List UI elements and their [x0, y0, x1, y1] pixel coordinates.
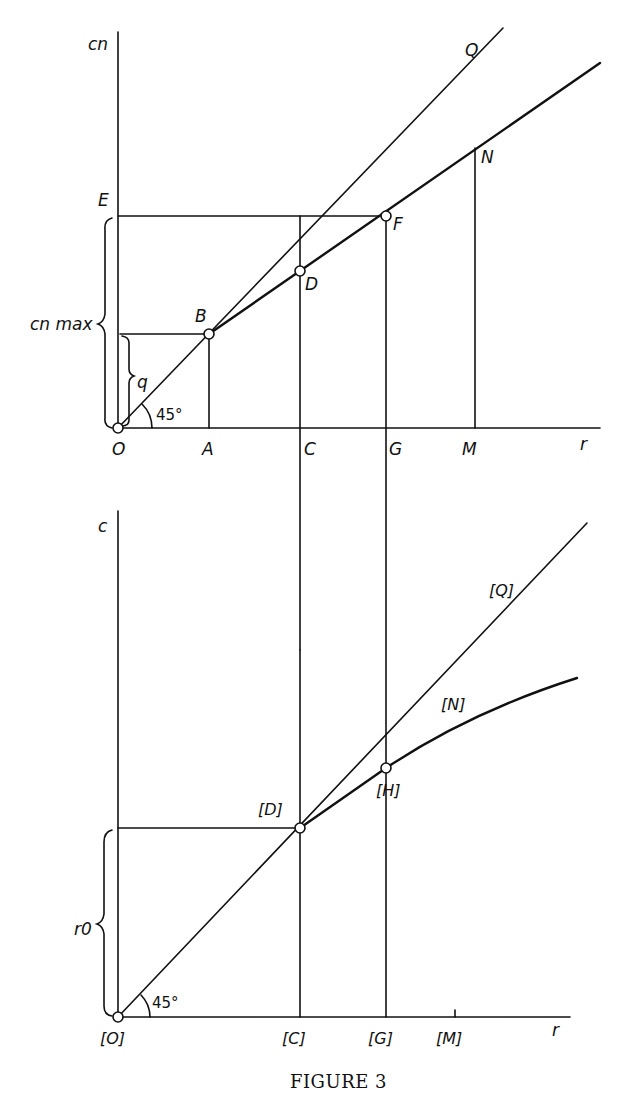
bottom-angle-arc: [141, 995, 150, 1017]
label-cn-max: cn max: [30, 314, 94, 334]
bottom-diagram: c [Q] [N] [H] [D] r0 45° [O] [C] [G] [M]…: [74, 511, 587, 1048]
bottom-N-curve: [300, 678, 577, 828]
label-O: O: [112, 439, 125, 459]
bottom-point-O: [113, 1012, 123, 1022]
top-point-D: [295, 266, 305, 276]
top-point-O: [113, 423, 123, 433]
label-bracket-N: [N]: [441, 695, 465, 714]
cn-max-brace: [98, 218, 112, 428]
label-bracket-H: [H]: [376, 781, 401, 800]
label-bracket-O: [O]: [100, 1029, 125, 1048]
label-A: A: [201, 439, 214, 459]
bottom-point-D: [295, 823, 305, 833]
figure-3-diagram: cn E cn max q 45° B D F N Q O A C G M r: [0, 0, 633, 1106]
label-G: G: [389, 439, 402, 459]
bottom-Q-line: [118, 523, 587, 1017]
label-B: B: [195, 306, 207, 326]
label-F: F: [393, 214, 403, 234]
bottom-point-H: [381, 763, 391, 773]
label-bracket-G: [G]: [368, 1029, 393, 1048]
label-N: N: [481, 147, 494, 167]
label-M: M: [462, 439, 477, 459]
label-bracket-M: [M]: [436, 1029, 462, 1048]
label-bracket-D: [D]: [258, 800, 283, 819]
label-E: E: [98, 190, 109, 210]
top-y-axis-label: cn: [88, 34, 108, 54]
r0-brace: [97, 830, 112, 1016]
top-angle-arc: [142, 404, 152, 428]
top-angle-label: 45°: [156, 406, 183, 424]
label-Q: Q: [465, 40, 478, 60]
top-point-F: [381, 211, 391, 221]
label-bracket-Q: [Q]: [489, 581, 514, 600]
bottom-x-axis-label: r: [552, 1020, 560, 1040]
figure-caption: FIGURE 3: [290, 1071, 387, 1092]
label-bracket-C: [C]: [282, 1029, 306, 1048]
label-q: q: [137, 372, 148, 392]
bottom-angle-label: 45°: [152, 994, 179, 1012]
top-diagram: cn E cn max q 45° B D F N Q O A C G M r: [30, 28, 600, 768]
top-Q-line: [118, 28, 503, 428]
label-C: C: [304, 439, 316, 459]
label-r0: r0: [74, 919, 92, 939]
top-point-B: [204, 329, 214, 339]
top-BN-line: [209, 63, 600, 334]
label-D: D: [305, 274, 318, 294]
top-x-axis-label: r: [580, 434, 588, 454]
bottom-y-axis-label: c: [98, 516, 108, 536]
